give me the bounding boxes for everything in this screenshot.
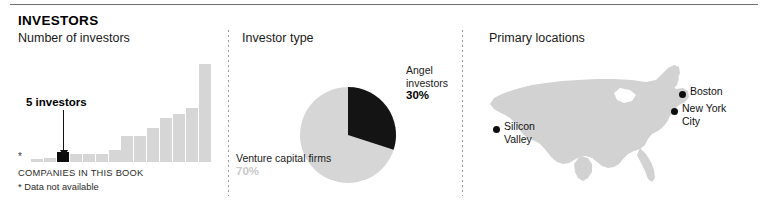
- map-label-silicon-valley: Silicon Valley: [504, 120, 535, 145]
- bar: [70, 154, 82, 162]
- map-label-boston: Boston: [690, 85, 723, 98]
- map-marker-boston[interactable]: [679, 91, 686, 98]
- panel-primary-locations: Primary locations Silicon Valley Boston …: [462, 0, 768, 203]
- pie-chart-subtitle: Investor type: [242, 31, 314, 45]
- bar: [109, 150, 121, 162]
- bar: [121, 136, 133, 162]
- bar-footnote: * Data not available: [18, 182, 99, 192]
- bar: [31, 159, 43, 162]
- bar: [186, 108, 198, 162]
- no-data-asterisk: *: [18, 152, 22, 162]
- bar-callout-label: 5 investors: [26, 96, 87, 108]
- panel-investor-type: Investor type Angel investors 30% Ventur…: [228, 0, 462, 203]
- us-texas-notch-shape: [574, 156, 592, 181]
- map-label-new-york-city: New York City: [682, 102, 726, 127]
- map-marker-silicon-valley[interactable]: [493, 126, 500, 133]
- map-subtitle: Primary locations: [489, 31, 585, 45]
- bar: [44, 158, 56, 162]
- bar-chart-subtitle: Number of investors: [18, 31, 130, 45]
- bar: [199, 64, 211, 162]
- panel-number-of-investors: INVESTORS Number of investors * 5 invest…: [0, 0, 228, 203]
- bar-callout-arrow-icon: [59, 110, 68, 158]
- bar-axis-caption: COMPANIES IN THIS BOOK: [18, 168, 144, 178]
- bar: [147, 128, 159, 162]
- us-florida-shape: [637, 148, 655, 182]
- bar-chart-plot-area: [18, 62, 211, 162]
- bar: [160, 118, 172, 162]
- pie-label-angel-name: Angel investors: [406, 64, 462, 89]
- pie-label-angel-investors: Angel investors 30%: [406, 64, 462, 102]
- us-landmass-shape: [490, 65, 689, 168]
- pie-value-angel-percent: 30%: [406, 89, 462, 102]
- pie-label-vc-name: Venture capital firms: [236, 152, 331, 165]
- map-marker-new-york-city[interactable]: [671, 108, 678, 115]
- bar: [173, 114, 185, 162]
- bar: [134, 136, 146, 162]
- pie-label-venture-capital: Venture capital firms 70%: [236, 152, 331, 177]
- pie-value-vc-percent: 70%: [236, 165, 331, 178]
- page-title: INVESTORS: [18, 13, 98, 28]
- bar: [83, 154, 95, 162]
- bar: [96, 154, 108, 162]
